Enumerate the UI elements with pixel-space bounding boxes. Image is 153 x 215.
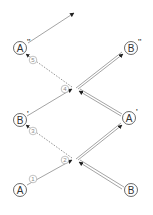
svg-text:B: B	[128, 43, 135, 54]
path-b-to-2	[79, 160, 124, 189]
node-b-prime: B '	[14, 110, 30, 127]
path-4-to-b-double-prime	[76, 52, 123, 89]
node-a-double-prime: A ''	[14, 38, 31, 55]
svg-text:A: A	[17, 43, 24, 54]
node-a-prime: A '	[123, 108, 139, 125]
svg-text:': '	[27, 110, 29, 117]
step-3: 3	[29, 127, 37, 135]
path-a-double-prime-to-top	[28, 13, 74, 43]
node-b: B	[125, 184, 138, 197]
step-5: 5	[29, 56, 37, 64]
svg-text:A: A	[126, 113, 133, 124]
svg-text:B: B	[128, 185, 135, 196]
svg-text:'': ''	[138, 38, 142, 45]
step-1: 1	[29, 175, 37, 183]
path-2-to-a-prime	[76, 123, 122, 160]
step-2: 2	[61, 156, 69, 164]
path-a-prime-to-4	[79, 89, 122, 116]
step-4: 4	[61, 85, 69, 93]
svg-text:'': ''	[27, 38, 31, 45]
diagram-canvas: A B B ' A ' A '' B '' 1 2 3 4	[0, 0, 153, 215]
node-b-double-prime: B ''	[125, 38, 142, 55]
node-a: A	[14, 184, 27, 197]
svg-text:B: B	[17, 115, 24, 126]
svg-text:A: A	[17, 185, 24, 196]
svg-text:': '	[136, 108, 138, 115]
